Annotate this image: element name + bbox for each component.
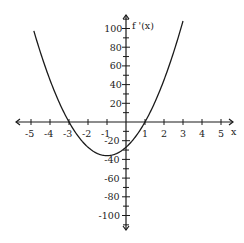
x-tick-label: 4	[199, 128, 205, 139]
x-tick-label: 1	[142, 128, 148, 139]
x-tick-label: -5	[25, 128, 34, 139]
y-tick-label: 20	[110, 98, 122, 109]
x-tick-label: -3	[63, 128, 72, 139]
y-tick-label: -20	[104, 135, 119, 146]
x-tick-label: 5	[218, 128, 224, 139]
y-tick-label: -60	[104, 173, 119, 184]
y-tick-label: -100	[99, 210, 120, 221]
y-tick-label: 60	[110, 60, 122, 71]
derivative-graph: -5-4-3-2-11234510080604020-20-40-60-80-1…	[0, 0, 244, 243]
y-axis-label: f '(x)	[132, 20, 154, 31]
y-tick-label: 100	[104, 23, 122, 34]
x-tick-label: -2	[82, 128, 91, 139]
x-tick-label: 2	[161, 128, 167, 139]
x-axis-label: x	[231, 126, 237, 137]
y-tick-label: -80	[104, 191, 119, 202]
x-tick-label: -4	[44, 128, 53, 139]
y-tick-label: 80	[110, 42, 122, 53]
y-tick-label: 40	[110, 79, 122, 90]
x-tick-label: 3	[180, 128, 186, 139]
